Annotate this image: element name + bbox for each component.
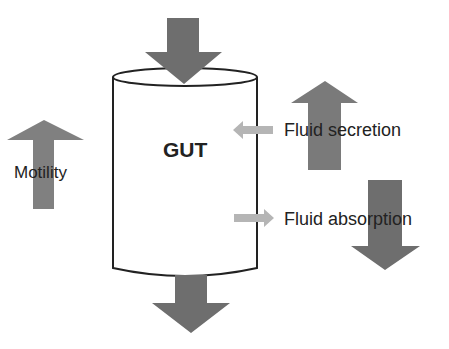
fluid-secretion-label: Fluid secretion [284, 120, 401, 141]
output-arrow-icon [152, 275, 230, 333]
fluid-absorption-label: Fluid absorption [284, 209, 412, 230]
gut-label: GUT [163, 138, 207, 162]
diagram-graphics [0, 0, 449, 349]
gut-diagram: GUT Motility Fluid secretion Fluid absor… [0, 0, 449, 349]
gut-cylinder [113, 68, 257, 276]
motility-label: Motility [14, 163, 67, 183]
